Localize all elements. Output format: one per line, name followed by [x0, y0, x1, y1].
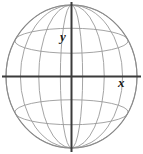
- x-axis-label: x: [118, 76, 125, 89]
- y-axis-label: y: [60, 30, 66, 43]
- sphere-coordinate-figure: y x: [0, 0, 143, 154]
